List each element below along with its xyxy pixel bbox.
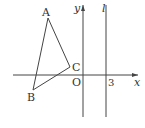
x-axis-label: x — [134, 76, 141, 89]
coordinate-diagram: A B C O x y l 3 — [0, 0, 145, 128]
tick-label-3: 3 — [108, 77, 114, 88]
line-l-label: l — [102, 2, 106, 15]
y-axis-label: y — [73, 2, 81, 15]
vertex-label-c: C — [72, 61, 80, 74]
y-axis-arrow-icon — [81, 5, 85, 11]
origin-label: O — [72, 76, 81, 89]
y-axis — [81, 5, 85, 117]
vertex-label-b: B — [27, 91, 35, 104]
vertex-label-a: A — [41, 6, 51, 19]
triangle-abc — [33, 18, 70, 90]
